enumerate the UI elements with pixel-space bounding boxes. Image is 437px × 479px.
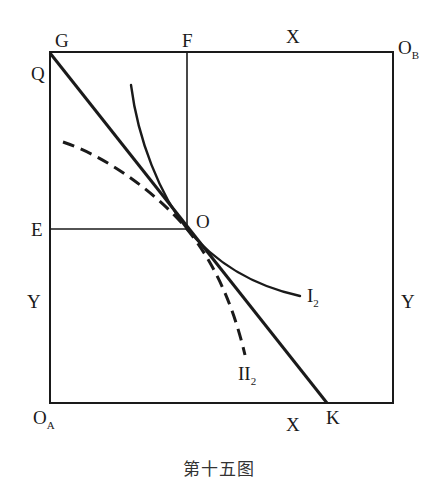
label-o-b: OB xyxy=(398,38,419,61)
label-f: F xyxy=(182,31,193,50)
edgeworth-box-outline xyxy=(50,52,393,403)
label-o-a-sub: A xyxy=(47,419,55,431)
label-k: K xyxy=(326,408,340,427)
label-g: G xyxy=(55,31,69,50)
label-o-b-main: O xyxy=(398,37,412,58)
label-o-a: OA xyxy=(33,408,55,431)
edgeworth-box-figure: G F X OB Q E O Y Y I2 II2 OA X K 第十五图 xyxy=(0,0,437,479)
label-y-right: Y xyxy=(401,292,415,311)
label-o: O xyxy=(196,212,210,231)
label-e: E xyxy=(31,220,43,239)
diagram-canvas xyxy=(0,0,437,479)
label-ii2-sub: 2 xyxy=(251,375,257,387)
label-x-bottom: X xyxy=(286,415,300,434)
label-i2: I2 xyxy=(307,286,319,309)
label-ii2-main: II xyxy=(238,363,251,384)
label-o-b-sub: B xyxy=(412,49,419,61)
price-line-qk xyxy=(50,53,327,403)
figure-caption: 第十五图 xyxy=(0,455,437,479)
label-x-top: X xyxy=(286,27,300,46)
label-o-a-main: O xyxy=(33,407,47,428)
label-q: Q xyxy=(31,64,45,83)
label-y-left: Y xyxy=(27,292,41,311)
label-ii2: II2 xyxy=(238,364,256,387)
label-i2-sub: 2 xyxy=(313,297,319,309)
